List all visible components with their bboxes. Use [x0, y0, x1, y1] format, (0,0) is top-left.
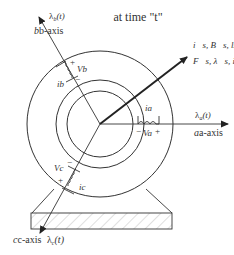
winding-b-voltage: Vb: [77, 64, 87, 74]
a-flux-label: λa(t): [195, 110, 211, 121]
winding-b-current: ib: [57, 79, 65, 89]
b-axis-label-text: b-axis: [39, 25, 64, 36]
winding-a-plus: +: [155, 126, 160, 136]
three-phase-machine-diagram: at time "t" bb-axis λb(t) λa(t) aa-axis …: [0, 0, 234, 255]
winding-b-plus: +: [70, 57, 75, 67]
b-flux-label: λb(t): [49, 11, 65, 22]
base-left-leg: [32, 189, 54, 213]
winding-c-current: ic: [79, 182, 86, 192]
a-axis-label: aa-axis: [194, 127, 223, 138]
winding-a-voltage: Va: [143, 128, 153, 138]
space-vector-label-line1: i⃗s, B⃗s, ls: [193, 40, 234, 50]
winding-a-current: ia: [145, 103, 153, 113]
winding-c-plus: +: [58, 175, 63, 185]
c-flux-label: λc(t): [47, 234, 65, 246]
base-right-leg: [146, 189, 172, 213]
winding-c-minus: −: [67, 157, 72, 167]
b-axis-label: bb-axis: [34, 25, 64, 36]
diagram-title: at time "t": [113, 10, 162, 24]
a-axis-label-text: a-axis: [199, 127, 223, 138]
c-axis-label: cc-axis: [13, 234, 41, 245]
c-axis-label-text: c-axis: [17, 234, 41, 245]
winding-a-minus: −: [136, 126, 141, 136]
winding-c-voltage: Vc: [54, 163, 64, 173]
base-plate: [31, 213, 172, 229]
winding-b-minus: −: [75, 74, 80, 84]
space-vector-label-line2: F⃗s, λ⃗s, is: [192, 56, 234, 66]
